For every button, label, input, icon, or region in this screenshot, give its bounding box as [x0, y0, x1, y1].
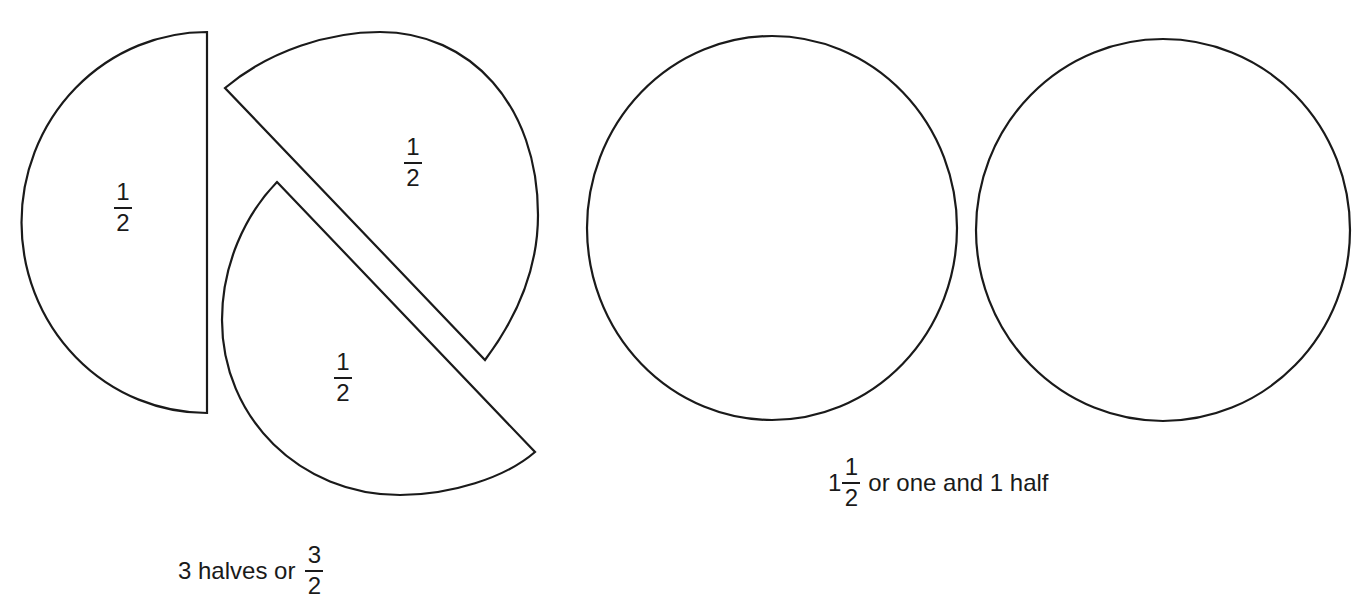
numerator: 1 [406, 135, 419, 159]
numerator: 1 [336, 350, 349, 374]
half-circle-lower [222, 182, 535, 495]
numerator: 1 [845, 455, 858, 479]
numerator: 1 [116, 180, 129, 204]
whole-circle-2 [976, 39, 1350, 421]
caption-fraction: 3 2 [305, 543, 323, 598]
diagram-shapes [0, 0, 1359, 603]
caption-mixed-number: 1 1 2 or one and 1 half [828, 455, 1049, 510]
denominator: 2 [336, 381, 349, 405]
mixed-number: 1 1 2 [828, 455, 868, 510]
caption-three-halves: 3 halves or 3 2 [178, 543, 323, 598]
fraction-label-left-half: 1 2 [114, 180, 132, 235]
whole-part: 1 [828, 469, 841, 497]
denominator: 2 [845, 486, 858, 510]
denominator: 2 [308, 574, 321, 598]
caption-text: 3 halves or [178, 557, 295, 585]
fraction-part: 1 2 [842, 455, 860, 510]
numerator: 3 [308, 543, 321, 567]
half-circle-upper [225, 32, 538, 360]
fraction-label-lower-half: 1 2 [334, 350, 352, 405]
whole-circle-1 [587, 36, 957, 420]
denominator: 2 [406, 166, 419, 190]
fraction-label-upper-half: 1 2 [404, 135, 422, 190]
caption-text: or one and 1 half [868, 469, 1048, 497]
denominator: 2 [116, 211, 129, 235]
